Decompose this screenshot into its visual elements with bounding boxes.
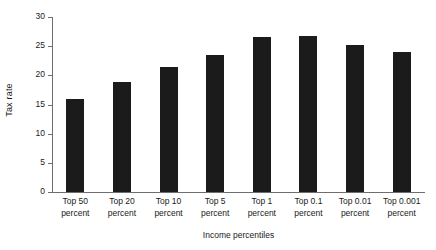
- x-tick-label-line2: percent: [375, 208, 429, 220]
- x-tick-label-line1: Top 0.1: [294, 196, 322, 206]
- bars-layer: [52, 17, 425, 193]
- y-tick-mark: [48, 134, 52, 135]
- x-tick-label: Top 0.001percent: [375, 196, 429, 219]
- y-tick-mark: [48, 75, 52, 76]
- bar[interactable]: [66, 99, 84, 192]
- y-tick-mark: [48, 46, 52, 47]
- bar[interactable]: [253, 37, 271, 192]
- y-tick-label: 0: [40, 186, 45, 197]
- bar[interactable]: [160, 67, 178, 192]
- x-tick-label-line1: Top 5: [205, 196, 226, 206]
- y-tick-mark: [48, 17, 52, 18]
- bar[interactable]: [113, 82, 131, 192]
- y-axis-title: Tax rate: [2, 5, 16, 195]
- x-tick-label-line1: Top 20: [109, 196, 135, 206]
- y-tick-label: 25: [36, 40, 45, 51]
- y-tick-mark: [48, 163, 52, 164]
- bar-chart: Tax rate 051015202530 Top 50percentTop 2…: [0, 0, 436, 250]
- x-tick-label-line1: Top 10: [156, 196, 182, 206]
- y-tick-mark: [48, 105, 52, 106]
- bar[interactable]: [206, 55, 224, 192]
- y-tick-label: 15: [36, 99, 45, 110]
- x-axis-title: Income percentiles: [52, 229, 425, 241]
- x-tick-label-line1: Top 50: [63, 196, 89, 206]
- y-tick-label: 10: [36, 128, 45, 139]
- bar[interactable]: [346, 45, 364, 192]
- x-tick-label-line1: Top 0.01: [339, 196, 372, 206]
- y-tick-label: 30: [36, 11, 45, 22]
- y-tick-mark: [48, 192, 52, 193]
- bar[interactable]: [393, 52, 411, 192]
- y-tick-label: 20: [36, 69, 45, 80]
- x-tick-label-line1: Top 1: [251, 196, 272, 206]
- y-tick-label: 5: [40, 157, 45, 168]
- x-tick-label-line1: Top 0.001: [383, 196, 420, 206]
- x-axis-tick-labels: Top 50percentTop 20percentTop 10percentT…: [52, 196, 425, 226]
- plot-area: 051015202530: [52, 17, 425, 193]
- bar[interactable]: [299, 36, 317, 192]
